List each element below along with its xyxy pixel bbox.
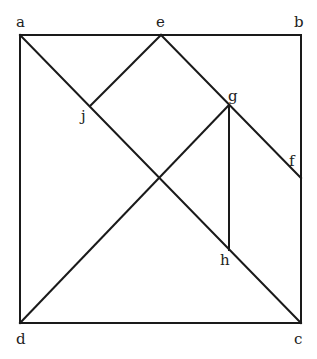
label-j: j: [79, 107, 86, 125]
label-h: h: [220, 251, 230, 269]
segment-ej: [90, 35, 161, 106]
tangram-diagram: a b c d e f g h j: [0, 0, 317, 359]
segments: [20, 35, 301, 323]
segment-dg: [20, 105, 229, 323]
label-e: e: [156, 13, 165, 31]
label-g: g: [228, 87, 238, 105]
segment-ef: [161, 35, 301, 178]
point-labels: a b c d e f g h j: [16, 13, 304, 348]
label-f: f: [289, 152, 296, 170]
label-d: d: [16, 330, 26, 348]
label-a: a: [16, 13, 25, 31]
label-c: c: [294, 330, 302, 348]
label-b: b: [294, 13, 304, 31]
